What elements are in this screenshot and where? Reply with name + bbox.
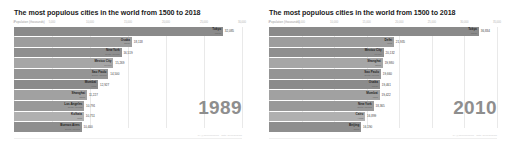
bar-country-label: Japan (372, 85, 378, 88)
axis-baseline (14, 138, 242, 139)
bar-value-label: 10,751 (84, 114, 95, 118)
x-tick-label: 30,000 (460, 21, 468, 24)
bar-country-label: Japan (124, 42, 130, 45)
bar (269, 27, 479, 37)
bar-label-group: MumbaiIndia (85, 80, 99, 90)
bar (14, 27, 223, 37)
bar-country-label: Africa (358, 117, 364, 120)
bar-row: Sao PauloSouth America14,500 (14, 69, 242, 79)
chart-panel-2010: The most populous cities in the world fr… (255, 0, 509, 153)
bar-row: MumbaiIndia12,927 (14, 80, 242, 90)
bar-label-group: OsakaJapan (369, 80, 380, 90)
bar-label-group: Buenos AiresSouth America (60, 122, 82, 132)
bar-row: TokyoJapan32,085 (14, 27, 242, 37)
bar-country-label: China (353, 128, 359, 131)
page-title: The most populous cities in the world fr… (269, 9, 455, 17)
bar-label-group: New YorkNorth America (105, 48, 121, 58)
bar-value-label: 15,269 (113, 61, 124, 65)
bar-value-label: 12,927 (98, 83, 109, 87)
x-tick-label: 10,000 (86, 21, 94, 24)
bar-row: ShanghaiChina19,980 (269, 58, 497, 68)
x-tick-label: 20,000 (395, 21, 403, 24)
bar-label-group: New YorkNorth America (357, 101, 373, 111)
plot-area: 05,00010,00015,00020,00025,00030,00035,0… (269, 24, 497, 138)
bar-country-label: India (77, 117, 82, 120)
bar (269, 80, 380, 90)
chart-subtitle: Population (thousands) (269, 20, 300, 24)
bar-label-group: Los AngelesNorth America (64, 101, 84, 111)
bar-country-label: China (375, 64, 381, 67)
bar-row: Buenos AiresSouth America10,400 (14, 122, 242, 132)
bar-country-label: South America (65, 128, 80, 131)
bar-label-group: ShanghaiChina (71, 90, 87, 100)
bar-value-label: 32,085 (223, 29, 234, 33)
bar (14, 37, 132, 47)
bar (269, 58, 383, 68)
bar (269, 37, 394, 47)
bar-country-label: South America (92, 74, 107, 77)
x-tick-label: 30,000 (238, 21, 246, 24)
bar-country-label: Mexico (104, 64, 111, 67)
x-tick-label: 35,000 (493, 21, 501, 24)
bar-value-label: 16,899 (365, 114, 376, 118)
bar-row: New YorkNorth America16,519 (14, 48, 242, 58)
bar (269, 122, 361, 132)
x-tick-label: 20,000 (162, 21, 170, 24)
bar-value-label: 10,400 (82, 125, 93, 129)
x-tick-label: 10,000 (330, 21, 338, 24)
bar-label-group: MumbaiIndia (366, 90, 380, 100)
page-title: The most populous cities in the world fr… (14, 9, 200, 17)
bar-row: Sao PauloSouth America19,660 (269, 69, 497, 79)
bar-value-label: 16,519 (122, 51, 133, 55)
bar-row: OsakaJapan19,461 (269, 80, 497, 90)
attribution-text: by @jburnmurdoch · data: demographia (198, 134, 242, 137)
x-tick-label: 15,000 (124, 21, 132, 24)
chart-pair-stage: The most populous cities in the world fr… (0, 0, 509, 153)
year-annotation: 1989 (198, 97, 242, 119)
bar-value-label: 10,791 (84, 104, 95, 108)
x-tick-label: 0 (13, 21, 15, 24)
bar-country-label: India (373, 96, 378, 99)
bar-value-label: 14,500 (108, 72, 119, 76)
axis-baseline (269, 138, 497, 139)
bar-value-label: 19,461 (380, 83, 391, 87)
x-tick-label: 5,000 (298, 21, 305, 24)
bar-label-group: TokyoJapan (212, 27, 223, 37)
bar-country-label: South America (364, 74, 379, 77)
bar-value-label: 36,834 (479, 29, 490, 33)
bar-label-group: Sao PauloSouth America (364, 69, 381, 79)
bar-country-label: India (387, 42, 392, 45)
bar-country-label: North America (105, 53, 119, 56)
bar-label-group: OsakaJapan (121, 37, 132, 47)
bar-label-group: ShanghaiChina (367, 58, 383, 68)
bar-label-group: KolkataIndia (71, 112, 84, 122)
bar-row: Mexico CityMexico20,132 (269, 48, 497, 58)
bar-country-label: North America (357, 106, 371, 109)
bar-country-label: India (91, 85, 96, 88)
bar-row: OsakaJapan18,118 (14, 37, 242, 47)
bar-row: TokyoJapan36,834 (269, 27, 497, 37)
bar-row: Mexico CityMexico15,269 (14, 58, 242, 68)
x-tick-label: 0 (268, 21, 270, 24)
bar-value-label: 16,190 (361, 125, 372, 129)
x-tick-label: 5,000 (49, 21, 56, 24)
bar-country-label: Mexico (375, 53, 382, 56)
bar (269, 112, 365, 122)
bar (269, 90, 380, 100)
bar-label-group: Mexico CityMexico (95, 58, 114, 68)
gridline (497, 27, 498, 129)
bar-row: BeijingChina16,190 (269, 122, 497, 132)
bar-label-group: CairoAfrica (356, 112, 366, 122)
chart-subtitle: Population (thousands) (14, 20, 45, 24)
bar-country-label: North America (68, 106, 82, 109)
bar-value-label: 19,422 (380, 93, 391, 97)
bar-label-group: DelhiIndia (385, 37, 394, 47)
bar-country-label: Japan (471, 32, 477, 35)
bar-label-group: Sao PauloSouth America (92, 69, 109, 79)
year-annotation: 2010 (453, 97, 497, 119)
bar-label-group: BeijingChina (349, 122, 361, 132)
x-tick-label: 25,000 (428, 21, 436, 24)
bar-country-label: China (79, 96, 85, 99)
gridline (242, 27, 243, 129)
bar-label-group: TokyoJapan (468, 27, 479, 37)
